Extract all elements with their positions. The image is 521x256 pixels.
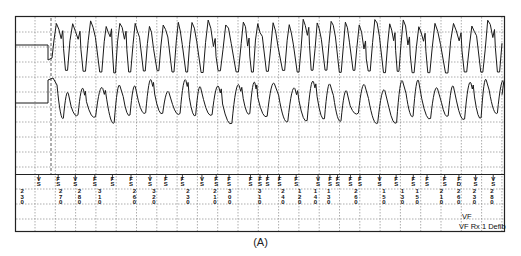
marker-label-fs: S [336,181,340,187]
marker-label-fs: S [294,181,298,187]
marker-label-fs: S [348,181,352,187]
marker-label-fs: S [164,181,168,187]
marker-label-fs: S [248,181,252,187]
marker-label-vs: S [491,181,495,187]
marker-label-fs: S [180,181,184,187]
marker-label-fs: S [56,181,60,187]
interval-value: 0 [21,199,25,205]
interval-value: 0 [98,199,102,205]
marker-label-fs: S [93,181,97,187]
marker-label-fs: S [227,181,231,187]
trace-atrial-egm [16,19,502,73]
marker-label-vs: S [316,181,320,187]
interval-value: 0 [354,199,358,205]
marker-label-fs: S [266,181,270,187]
marker-label-fs: S [425,181,429,187]
marker-label-fd: D [457,181,462,187]
marker-label-vs: S [148,181,152,187]
marker-label-fs: S [411,181,415,187]
marker-label-fs: S [328,181,332,187]
marker-label-vs: S [474,181,478,187]
marker-label-fs: S [443,181,447,187]
annotation-vf: VF [462,212,472,221]
annotation-vf-rx-defib: VF Rx 1 Defib [459,222,506,231]
marker-label-fs: S [214,181,218,187]
interval-value: 0 [327,199,331,205]
interval-value: 0 [186,199,190,205]
marker-label-fs: S [358,181,362,187]
traces [16,19,504,124]
interval-value: 0 [78,199,82,205]
interval-value: 0 [152,199,156,205]
marker-label-vs: S [200,181,204,187]
markers: VSFSVSFSFSFSVSFSFSVSFSFSFSFSFSFSFSVSFSFS… [21,175,496,205]
egm-strip: VSFSVSFSFSFSVSFSFSVSFSFSFSFSFSFSFSVSFSFS… [0,0,521,256]
marker-label-fs: S [110,181,114,187]
marker-label-vs: S [73,181,77,187]
marker-label-vs: S [377,181,381,187]
interval-value: 0 [281,199,285,205]
interval-value: 0 [213,199,217,205]
marker-label-fs: S [129,181,133,187]
marker-label-fs: S [278,181,282,187]
interval-value: 0 [258,199,262,205]
marker-label-vs: S [37,181,41,187]
interval-value: 0 [228,199,232,205]
trace-ventricular-egm [16,78,504,124]
marker-label-fs: S [394,181,398,187]
marker-label-fs: S [258,181,262,187]
figure-caption: (A) [0,236,521,248]
